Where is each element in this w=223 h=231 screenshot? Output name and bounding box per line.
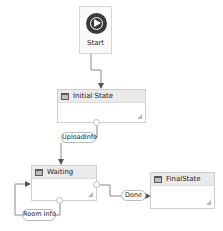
start-label: Start	[80, 39, 111, 47]
state-initial[interactable]: Initial State	[57, 89, 146, 123]
wire-waiting-loop	[56, 203, 60, 215]
state-title: Waiting	[47, 168, 73, 176]
transition-label-done[interactable]: Done	[121, 190, 146, 201]
state-icon	[35, 169, 43, 176]
state-header: Waiting	[32, 166, 96, 179]
wire-start-to-initial	[91, 54, 101, 88]
resize-grip-icon[interactable]	[137, 114, 142, 119]
transition-label-uploadinfo[interactable]: UploadInfo	[61, 132, 96, 143]
state-header: FinalState	[151, 173, 214, 186]
state-title: Initial State	[73, 92, 113, 100]
connection-port[interactable]	[93, 119, 100, 126]
resize-grip-icon[interactable]	[88, 192, 93, 197]
state-header: Initial State	[58, 90, 145, 103]
resize-grip-icon[interactable]	[206, 200, 211, 205]
connection-port[interactable]	[56, 197, 63, 204]
state-final[interactable]: FinalState	[150, 172, 215, 209]
state-title: FinalState	[166, 175, 201, 183]
connection-port[interactable]	[93, 181, 100, 188]
state-icon	[61, 93, 69, 100]
final-state-icon	[154, 176, 162, 183]
state-waiting[interactable]: Waiting	[31, 165, 97, 201]
transition-label-room-info[interactable]: Room Info	[22, 209, 56, 221]
start-node[interactable]: Start	[79, 6, 112, 54]
play-circle-icon	[86, 13, 107, 34]
wire-waiting-to-final	[99, 185, 121, 196]
